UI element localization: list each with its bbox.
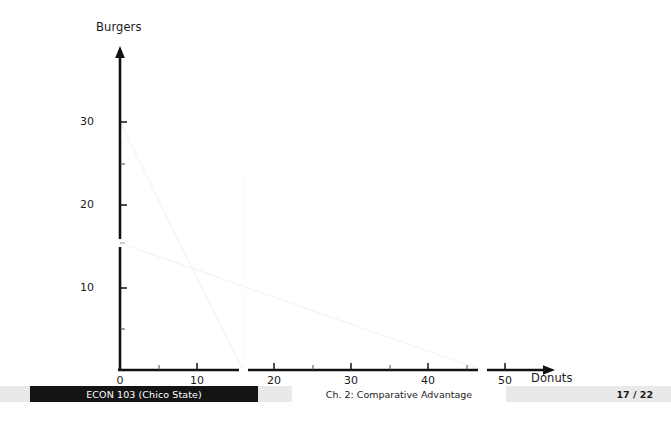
y-axis-arrowhead: [115, 46, 125, 58]
footer-chapter-section: Ch. 2: Comparative Advantage: [292, 386, 506, 402]
ppf-steep-line: [120, 122, 243, 370]
footer-page-number: 17 / 22: [616, 389, 653, 400]
footer-course-label: ECON 103 (Chico State): [86, 389, 202, 400]
footer-bar: ECON 103 (Chico State) Ch. 2: Comparativ…: [0, 386, 671, 402]
slide-footer: ECON 103 (Chico State) Ch. 2: Comparativ…: [0, 386, 671, 432]
y-tick-label-30: 30: [72, 115, 94, 128]
footer-chapter-label: Ch. 2: Comparative Advantage: [326, 389, 472, 400]
slide-body: Burgers Donuts 30 20 10 0 10 20 30 40 50: [0, 0, 671, 386]
footer-course-section: ECON 103 (Chico State): [0, 386, 292, 402]
x-axis-title: Donuts: [531, 371, 573, 385]
y-axis-title: Burgers: [96, 20, 142, 34]
footer-page-section: 17 / 22: [506, 386, 671, 402]
y-tick-label-10: 10: [72, 281, 94, 294]
chart-canvas: [0, 0, 671, 386]
ppf-flat-line: [120, 243, 482, 370]
ppf-chart: Burgers Donuts 30 20 10 0 10 20 30 40 50: [0, 0, 671, 386]
footer-course-block: ECON 103 (Chico State): [30, 386, 258, 402]
y-tick-label-20: 20: [72, 198, 94, 211]
